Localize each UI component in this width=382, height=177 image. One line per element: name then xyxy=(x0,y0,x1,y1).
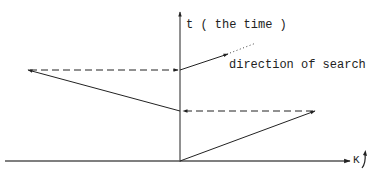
search-step-2-line xyxy=(28,70,180,111)
direction-of-search-label: direction of search xyxy=(229,59,366,71)
search-continuation-dotted xyxy=(230,43,256,53)
t-axis-label: t ( the time ) xyxy=(186,19,287,31)
search-step-3-arrow xyxy=(180,54,228,70)
search-step-1-arrow xyxy=(180,111,315,161)
k-axis-label: K xyxy=(353,155,360,166)
k-curve-arrow-icon xyxy=(363,150,367,156)
